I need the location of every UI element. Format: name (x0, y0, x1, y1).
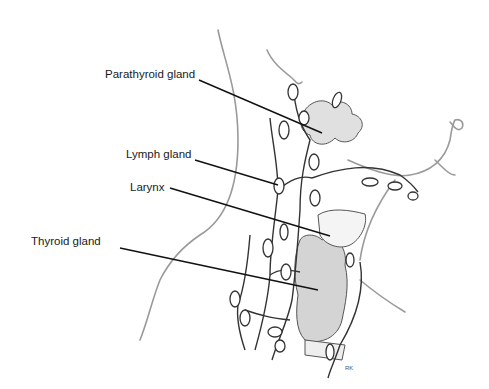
illustration: RK (0, 0, 489, 389)
glands (295, 101, 366, 360)
label-thyroid-gland: Thyroid gland (31, 236, 101, 248)
label-larynx: Larynx (130, 182, 165, 194)
artist-signature: RK (345, 365, 353, 371)
label-lymph-gland: Lymph gland (126, 149, 191, 161)
neck-anatomy-diagram: RK Parathyroid gland Lymph gland Larynx … (0, 0, 489, 389)
label-parathyroid-gland: Parathyroid gland (105, 69, 195, 81)
